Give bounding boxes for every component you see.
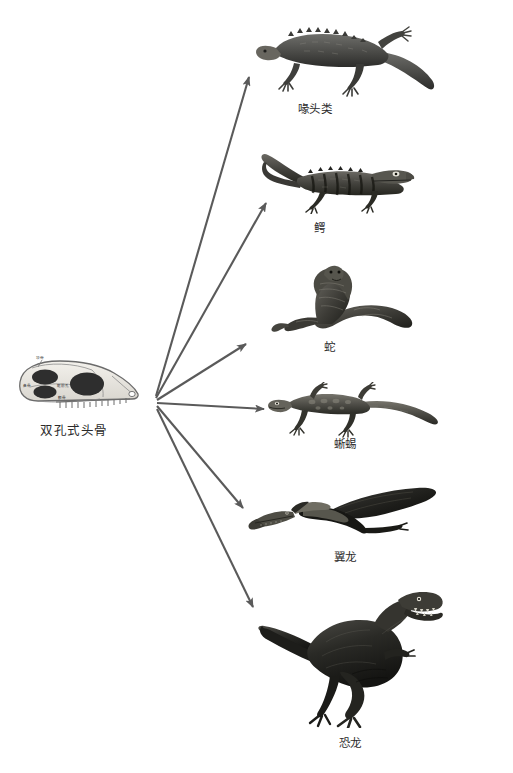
crocodile-illustration — [256, 146, 416, 214]
skull-label-lower: 颧骨 — [58, 395, 66, 400]
branch-label-lizard: 蜥蜴 — [310, 435, 380, 451]
skull-label-middle: 眶前孔 — [57, 383, 69, 388]
orbit-opening — [70, 373, 104, 396]
diapsid-skull-diagram: 顶骨 鼻骨 眶前孔 颧骨 — [8, 356, 140, 416]
branch-label-tuatara: 喙头类 — [245, 100, 385, 116]
branch-label-pterosaur: 翼龙 — [310, 548, 380, 564]
skull-label-left: 鼻骨 — [23, 383, 31, 388]
lower-temporal-fenestra — [34, 386, 57, 399]
arrow-to-dinosaur — [157, 409, 253, 607]
arrow-to-snake — [157, 344, 246, 400]
arrow-to-lizard — [157, 403, 264, 409]
branch-label-snake: 蛇 — [300, 338, 360, 354]
tyrannosaurus-illustration — [256, 578, 448, 728]
cobra-illustration — [266, 262, 416, 334]
pterosaur-illustration — [247, 482, 445, 544]
arrow-to-pterosaur — [157, 406, 243, 508]
nostril-opening — [129, 391, 135, 396]
lizard-illustration — [266, 382, 442, 438]
source-node-caption: 双孔式头骨 — [8, 420, 140, 439]
tuatara-illustration — [252, 18, 442, 100]
branch-label-dinosaur: 恐龙 — [310, 734, 390, 750]
branch-label-crocodile: 鳄 — [275, 219, 365, 235]
upper-temporal-fenestra — [32, 370, 58, 385]
arrow-to-tuatara — [156, 77, 249, 396]
skull-label-upper: 顶骨 — [36, 356, 44, 360]
diapsid-radiation-figure: 顶骨 鼻骨 眶前孔 颧骨 双孔式头骨 — [0, 0, 513, 773]
arrow-to-crocodile — [156, 203, 266, 398]
